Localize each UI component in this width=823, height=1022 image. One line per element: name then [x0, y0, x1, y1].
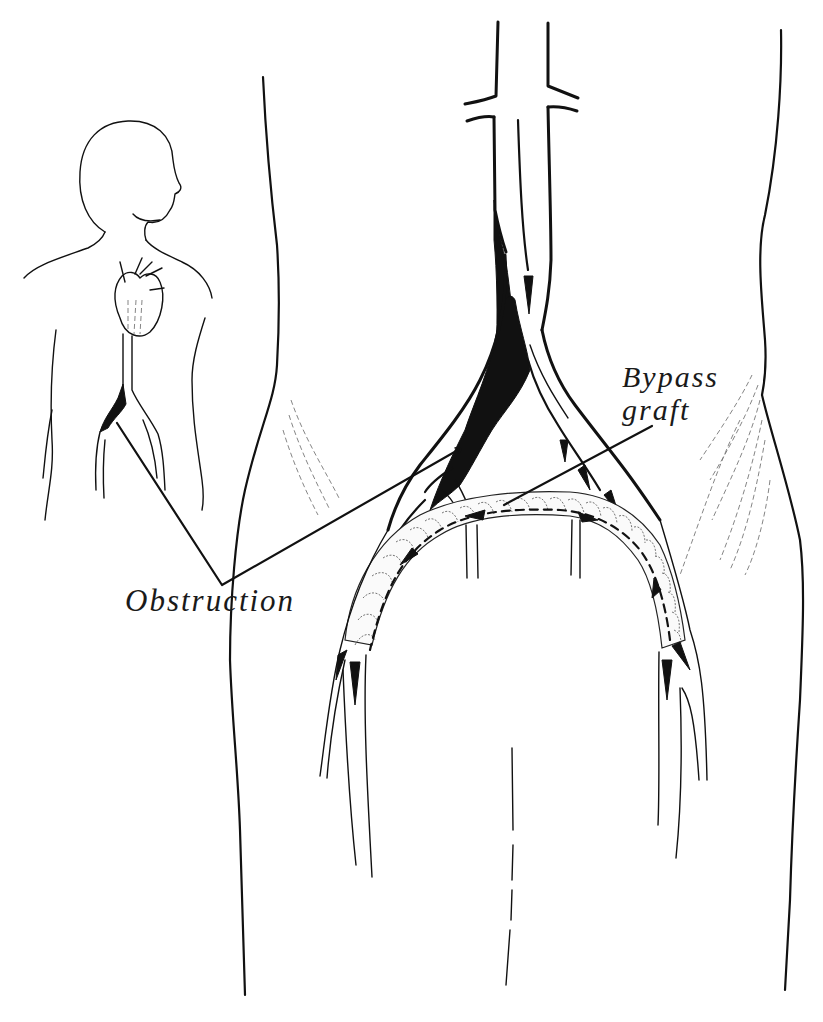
diagram-canvas: [0, 0, 823, 1022]
heart-icon: [115, 258, 164, 336]
flow-arrow-icon: [560, 440, 568, 462]
bypass-graft-label-line1: Bypass: [622, 360, 719, 393]
flow-arrow-icon: [578, 465, 590, 490]
bypass-graft-diagram: Bypass graft Obstruction: [0, 0, 823, 1022]
bypass-graft-label-line2: graft: [622, 393, 719, 426]
flow-arrow-icon: [524, 276, 533, 314]
bypass-graft-label: Bypass graft: [622, 360, 719, 426]
inset-body-figure: [24, 121, 212, 520]
obstruction-label: Obstruction: [125, 585, 295, 616]
aorta: [465, 22, 578, 350]
bypass-graft: [345, 492, 685, 650]
inset-aorta: [96, 334, 165, 498]
flow-arrow-icon: [672, 642, 690, 670]
flow-arrow-icon: [350, 662, 360, 705]
flow-arrow-icon: [662, 660, 672, 700]
